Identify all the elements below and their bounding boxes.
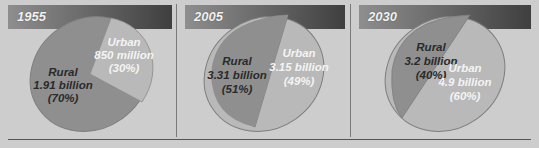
urban-value-2005: 3.15 billion — [269, 61, 328, 73]
chart-frame: 1955 2005 2030 Rural 1.9 — [0, 0, 539, 148]
rural-value-1955: 1.91 billion — [33, 79, 92, 91]
urban-pct-2005: (49%) — [284, 75, 315, 87]
rural-value-2005: 3.31 billion — [207, 69, 266, 81]
urban-value-1955: 850 million — [94, 49, 153, 61]
urban-label-2030: Urban — [448, 62, 481, 74]
urban-pct-1955: (30%) — [109, 62, 140, 74]
urban-value-2030: 4.9 billion — [437, 76, 491, 88]
urban-label-1955: Urban — [107, 36, 140, 48]
rural-label-2030: Rural — [416, 41, 446, 53]
pie-charts: Rural 1.91 billion (70%) Urban 850 milli… — [0, 0, 539, 148]
rural-label-1955: Rural — [48, 66, 78, 78]
urban-pct-2030: (60%) — [450, 90, 481, 102]
rural-pct-2005: (51%) — [222, 83, 253, 95]
rural-pct-1955: (70%) — [48, 92, 79, 104]
rural-label-2005: Rural — [222, 55, 252, 67]
urban-label-2005: Urban — [282, 47, 315, 59]
